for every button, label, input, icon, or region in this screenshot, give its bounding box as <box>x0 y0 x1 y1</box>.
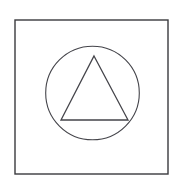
square-frame-shape <box>15 20 168 174</box>
inner-triangle-shape <box>61 56 128 120</box>
figure-triangle-in-circle-in-square <box>0 0 183 187</box>
image-canvas <box>0 0 183 187</box>
